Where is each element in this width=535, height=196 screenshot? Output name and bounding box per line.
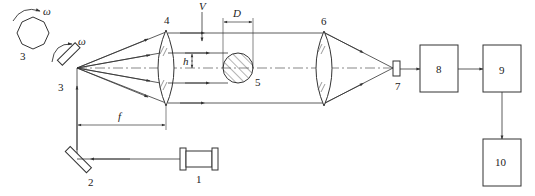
lens-6-icon: 6 <box>316 15 332 106</box>
label-7: 7 <box>395 80 401 92</box>
velocity-symbol: V <box>199 0 207 12</box>
block-8: 8 <box>420 45 458 92</box>
d-symbol: D <box>232 7 241 19</box>
label-4: 4 <box>164 14 170 26</box>
lens-4-icon: 4 <box>158 14 174 106</box>
detector-7-icon: 7 <box>393 61 401 92</box>
h-symbol: h <box>183 55 189 67</box>
fold-mirror-2-icon: 2 <box>65 147 93 188</box>
label-2: 2 <box>88 176 94 188</box>
label-3-polygon: 3 <box>20 50 26 62</box>
label-8: 8 <box>436 63 442 75</box>
polygon-mirror-icon: ω 3 <box>13 5 51 62</box>
f-symbol: f <box>118 110 123 122</box>
laser-1-icon: 1 <box>180 148 218 185</box>
block-9: 9 <box>483 45 521 92</box>
label-1: 1 <box>196 173 202 185</box>
scanning-mirror-icon: ω 3 <box>52 35 86 93</box>
scan-ray-fan <box>77 32 166 103</box>
label-10: 10 <box>495 156 507 168</box>
f-dimension: f <box>78 106 166 130</box>
label-6: 6 <box>321 15 327 27</box>
object-5-icon: 5 <box>223 53 261 88</box>
block-10: 10 <box>483 139 521 186</box>
velocity-arrow: V <box>199 0 207 41</box>
label-9: 9 <box>499 64 505 76</box>
omega-symbol: ω <box>43 5 51 17</box>
omega-symbol-mirror: ω <box>78 35 86 47</box>
label-5: 5 <box>255 76 261 88</box>
optical-diagram: ω 3 ω 3 4 <box>0 0 535 196</box>
h-dimension: h <box>183 54 192 68</box>
label-3-mirror: 3 <box>58 81 64 93</box>
